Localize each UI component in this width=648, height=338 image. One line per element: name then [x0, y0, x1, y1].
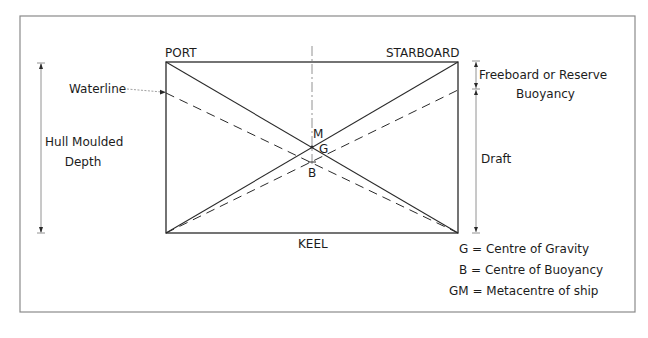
label-freeboard-1: Freeboard or Reserve [479, 68, 607, 82]
legend-item-g: G = Centre of Gravity [459, 242, 589, 256]
waterline-arrow-icon [160, 90, 166, 95]
waterline-leader [127, 89, 162, 92]
label-hull-depth-1: Hull Moulded [45, 135, 121, 149]
label-starboard: STARBOARD [386, 46, 460, 60]
legend-item-b: B = Centre of Buoyancy [459, 263, 603, 277]
label-waterline: Waterline [69, 82, 126, 96]
label-point-b: B [308, 166, 316, 180]
freeboard-arrow-bottom-icon [474, 83, 478, 88]
label-keel: KEEL [298, 237, 328, 251]
label-hull-depth-2: Depth [45, 155, 121, 169]
point-g-marker [311, 146, 314, 149]
freeboard-arrow-top-icon [474, 62, 478, 67]
legend-item-gm: GM = Metacentre of ship [449, 284, 598, 298]
draft-arrow-top-icon [474, 90, 478, 95]
label-point-g: G [319, 142, 328, 156]
hull-depth-arrow-bottom-icon [39, 227, 43, 233]
label-draft: Draft [481, 152, 511, 166]
draft-arrow-bottom-icon [474, 227, 478, 232]
label-port: PORT [165, 46, 196, 60]
label-point-m: M [313, 127, 323, 141]
label-freeboard-2: Buoyancy [516, 87, 575, 101]
hull-depth-arrow-top-icon [39, 63, 43, 69]
